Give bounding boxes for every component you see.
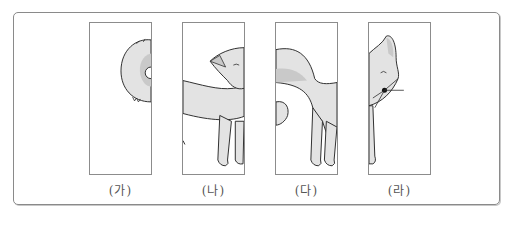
fox-body-and-legs-image [276, 23, 337, 174]
fox-head-and-front-leg-image [369, 23, 430, 174]
fox-tail-and-hindquarter-image [183, 23, 244, 174]
panel-label-da: (다) [275, 181, 338, 198]
panel-ra [368, 22, 431, 175]
panel-ga [89, 22, 152, 175]
panel-da [275, 22, 338, 175]
panel-label-ga: (가) [89, 181, 152, 198]
panel-label-na: (나) [182, 181, 245, 198]
panel-label-ra: (라) [368, 181, 431, 198]
panel-na [182, 22, 245, 175]
fox-tail-curl-image [90, 23, 151, 174]
